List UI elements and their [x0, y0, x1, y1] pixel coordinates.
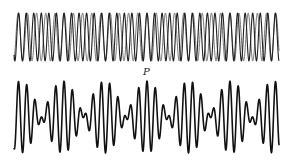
- beats-diagram: [0, 0, 293, 160]
- point-p-label: P: [143, 67, 150, 77]
- component-waves-panel: [14, 13, 279, 61]
- sum-wave-line: [14, 81, 279, 153]
- resultant-wave-panel: [14, 81, 279, 153]
